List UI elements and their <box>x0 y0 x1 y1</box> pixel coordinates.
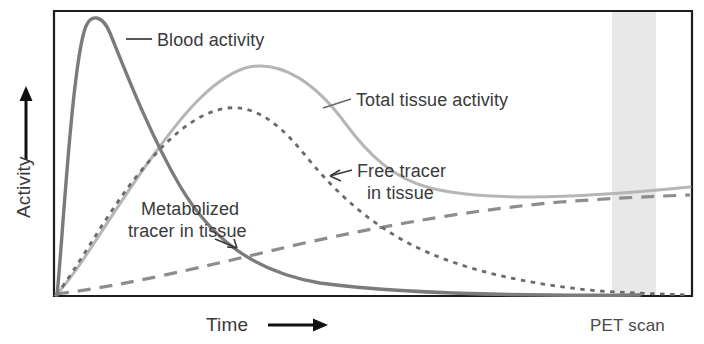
label-blood-activity: Blood activity <box>157 30 264 50</box>
y-axis-arrowhead-icon <box>20 86 33 101</box>
x-axis-title: Time <box>206 314 248 335</box>
label-free-tracer-line1: Free tracer <box>357 161 446 181</box>
x-axis-arrowhead-icon <box>313 319 328 332</box>
leader-arrow-free-tracer <box>330 170 341 181</box>
y-axis-title: Activity <box>13 156 34 218</box>
label-metabolized-line1: Metabolized <box>141 199 239 219</box>
chart-canvas: Blood activity Total tissue activity Fre… <box>0 0 704 344</box>
label-total-tissue-activity: Total tissue activity <box>356 90 508 110</box>
label-metabolized-line2: tracer in tissue <box>128 221 247 241</box>
label-free-tracer-line2: in tissue <box>367 183 434 203</box>
pet-tracer-kinetics-figure: Blood activity Total tissue activity Fre… <box>0 0 704 344</box>
leader-line-free-tracer <box>330 170 352 176</box>
pet-scan-label: PET scan <box>590 316 665 335</box>
series-blood-activity <box>57 18 640 295</box>
pet-scan-shaded-region <box>612 11 656 296</box>
